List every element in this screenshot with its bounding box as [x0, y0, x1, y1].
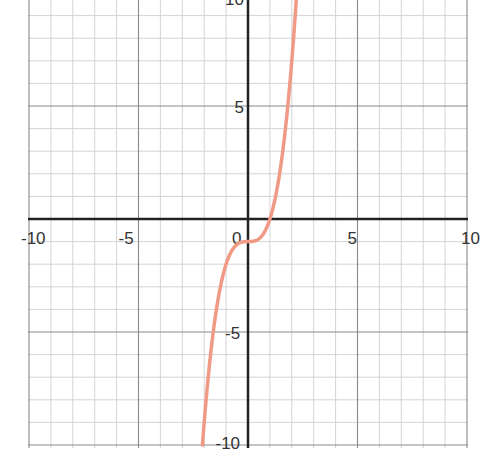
- y-tick-label: 5: [235, 98, 244, 117]
- y-tick-label: 10: [225, 0, 244, 9]
- x-tick-label: -5: [119, 229, 134, 248]
- y-tick-label: -10: [216, 434, 241, 453]
- x-axis-tick-labels: -10-50510: [21, 229, 480, 248]
- x-tick-label: 5: [348, 229, 357, 248]
- y-axis-tick-labels: 105-5-10: [216, 0, 244, 453]
- x-tick-label: -10: [21, 229, 46, 248]
- y-tick-label: -5: [225, 324, 240, 343]
- x-tick-label: 10: [461, 229, 480, 248]
- function-curve: [202, 0, 296, 445]
- cubic-function-graph: -10-50510 105-5-10: [0, 0, 491, 472]
